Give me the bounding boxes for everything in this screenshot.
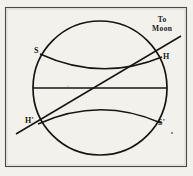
label-h: H <box>163 53 170 61</box>
label-to-moon-line-2: Moon <box>152 25 172 33</box>
lower-horizon-arc <box>38 110 161 124</box>
label-s: S <box>34 47 39 55</box>
label-to-moon: To Moon <box>152 16 172 32</box>
label-s-prime: S' <box>158 119 165 127</box>
upper-horizon-arc <box>40 54 162 69</box>
moon-direction-line <box>16 36 181 134</box>
speck-mark <box>171 132 173 134</box>
label-to-moon-line-1: To <box>152 16 172 24</box>
tidal-geometry-figure: S H H' S' To Moon <box>0 0 193 176</box>
speck-mark-equator <box>67 85 68 86</box>
label-h-prime: H' <box>25 117 34 125</box>
